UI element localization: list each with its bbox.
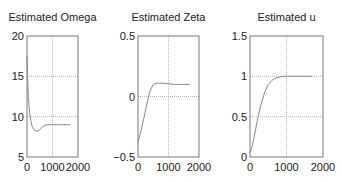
- y-tick-label: 15: [12, 70, 24, 82]
- series-line-zeta: [138, 83, 190, 142]
- x-tick-label: 2000: [187, 161, 211, 173]
- x-tick-label: 1000: [156, 161, 180, 173]
- chart-canvas: Estimated Omega5101520010002000Estimated…: [0, 0, 342, 182]
- series-line-u: [250, 76, 312, 153]
- grid-lines: [250, 36, 323, 157]
- subplot-2: Estimated Zeta−0.500.5010002000: [113, 11, 211, 173]
- x-tick-label: 2000: [311, 161, 335, 173]
- y-tick-label: 1: [241, 70, 247, 82]
- subplot-title: Estimated Zeta: [132, 11, 207, 23]
- subplot-3: Estimated u00.511.5010002000: [232, 11, 336, 173]
- x-tick-label: 2000: [66, 161, 90, 173]
- subplot-title: Estimated Omega: [8, 11, 97, 23]
- subplot-1: Estimated Omega5101520010002000: [8, 11, 97, 173]
- x-tick-label: 0: [135, 161, 141, 173]
- y-tick-label: 0.5: [120, 30, 135, 42]
- subplot-title: Estimated u: [257, 11, 315, 23]
- series-line-omega: [27, 56, 70, 131]
- grid-lines: [138, 36, 199, 157]
- y-tick-label: 0: [129, 91, 135, 103]
- y-tick-label: 1.5: [232, 30, 247, 42]
- x-tick-label: 0: [24, 161, 30, 173]
- grid-lines: [27, 36, 78, 157]
- y-tick-label: 10: [12, 111, 24, 123]
- y-tick-label: 0.5: [232, 111, 247, 123]
- x-tick-label: 1000: [40, 161, 64, 173]
- x-tick-label: 1000: [274, 161, 298, 173]
- y-tick-label: 20: [12, 30, 24, 42]
- y-tick-label: −0.5: [113, 151, 135, 163]
- x-tick-label: 0: [247, 161, 253, 173]
